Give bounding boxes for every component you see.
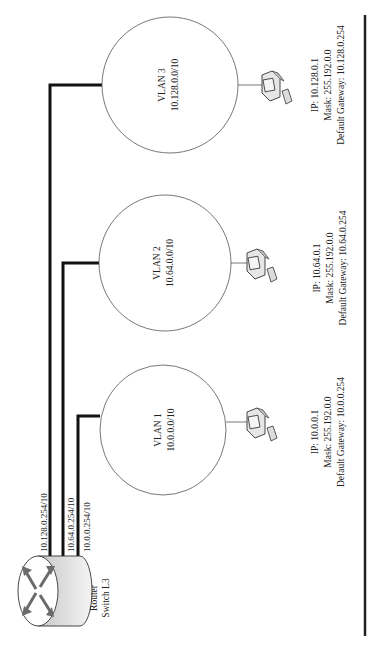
host-3-label: IP: 10.128.0.1 Mask: 255.192.0.0 Default… bbox=[310, 25, 346, 145]
host-3-gateway: Default Gateway: 10.128.0.254 bbox=[336, 25, 346, 145]
router-links bbox=[50, 85, 102, 556]
router-switch-l3: Router Switch L3 bbox=[18, 556, 111, 626]
pc-icon bbox=[247, 249, 277, 282]
host-2-mask: Mask: 255.192.0.0 bbox=[325, 232, 335, 304]
router-label-line1: Router bbox=[89, 584, 99, 611]
host-2-label: IP: 10.64.0.1 Mask: 255.192.0.0 Default … bbox=[312, 210, 348, 325]
vlan-3-name: VLAN 3 bbox=[157, 68, 167, 102]
router-label-line2: Switch L3 bbox=[101, 578, 111, 618]
link-vlan3 bbox=[50, 85, 102, 556]
host-1-gateway: Default Gateway: 10.0.0.254 bbox=[336, 377, 346, 487]
host-2-gateway: Default Gateway: 10.64.0.254 bbox=[338, 210, 348, 325]
vlan-2-network: 10.64.0.0/10 bbox=[165, 239, 175, 287]
network-diagram: VLAN 3 10.128.0.0/10 VLAN 2 10.64.0.0/10… bbox=[0, 0, 378, 653]
vlan-1-network: 10.0.0.0/10 bbox=[166, 408, 176, 451]
vlan-3-network: 10.128.0.0/10 bbox=[170, 58, 180, 111]
vlan-1: VLAN 1 10.0.0.0/10 bbox=[100, 365, 226, 495]
host-3-mask: Mask: 255.192.0.0 bbox=[323, 49, 333, 121]
interface-ip-vlan2: 10.64.0.254/10 bbox=[66, 497, 76, 552]
vlan-3: VLAN 3 10.128.0.0/10 bbox=[102, 17, 238, 153]
host-3-ip: IP: 10.128.0.1 bbox=[310, 58, 320, 112]
vlan-2: VLAN 2 10.64.0.0/10 bbox=[99, 195, 231, 331]
interface-ip-vlan1: 10.0.0.254/10 bbox=[82, 502, 92, 552]
host-1-ip: IP: 10.0.0.1 bbox=[310, 410, 320, 455]
pc-icon bbox=[247, 408, 277, 441]
vlan-1-circle bbox=[100, 365, 226, 495]
host-1-mask: Mask: 255.192.0.0 bbox=[323, 396, 333, 468]
vlan-1-name: VLAN 1 bbox=[153, 413, 163, 447]
pc-icon bbox=[262, 71, 292, 104]
host-2-ip: IP: 10.64.0.1 bbox=[312, 243, 322, 292]
vlan-2-name: VLAN 2 bbox=[152, 246, 162, 280]
interface-ip-vlan3: 10.128.0.254/10 bbox=[39, 493, 49, 552]
host-1-label: IP: 10.0.0.1 Mask: 255.192.0.0 Default G… bbox=[310, 377, 346, 487]
